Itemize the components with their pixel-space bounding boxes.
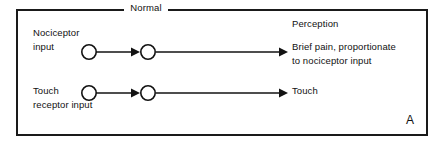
- input-label-touch-receptor: Touch receptor input: [33, 84, 93, 112]
- arrow-head-first-to-second-touch: [131, 89, 140, 98]
- arrow-head-perception-touch: [279, 89, 288, 98]
- node-second-order-neuron-nociceptor: [141, 45, 155, 59]
- output-label-touch: Touch: [292, 84, 318, 98]
- pathway-vector-layer: [0, 0, 445, 148]
- input-label-nociceptor: Nociceptor input: [33, 26, 79, 54]
- panel-letter: A: [406, 113, 414, 127]
- node-second-order-neuron-touch: [141, 86, 155, 100]
- arrow-head-perception-nociceptor: [279, 48, 288, 57]
- arrow-head-first-to-second-nociceptor: [131, 48, 140, 57]
- pathway-row-nociceptor: [82, 45, 288, 59]
- figure-panel-a: Normal Nociceptor input Touch receptor i…: [0, 0, 445, 148]
- output-label-brief-pain: Brief pain, proportionate to nociceptor …: [292, 40, 396, 68]
- pathway-row-touch: [82, 86, 288, 100]
- column-heading-perception: Perception: [292, 17, 338, 31]
- node-first-order-neuron-nociceptor: [82, 45, 96, 59]
